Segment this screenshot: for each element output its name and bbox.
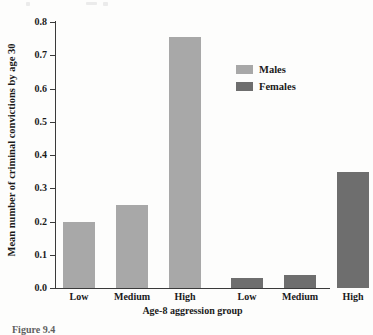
legend-label: Males <box>259 64 286 75</box>
bar-females-high <box>337 172 369 288</box>
y-tick-label: 0.4 <box>21 150 47 160</box>
y-tick-mark <box>50 222 55 223</box>
y-tick-mark <box>50 155 55 156</box>
chart-legend: MalesFemales <box>236 62 336 96</box>
scan-artifact <box>103 2 108 6</box>
bar-males-high <box>169 37 201 288</box>
y-tick-label: 0.3 <box>21 183 47 193</box>
x-axis-title: Age-8 aggression group <box>55 305 330 317</box>
x-axis-line <box>55 288 330 289</box>
y-tick-mark <box>50 288 55 289</box>
y-tick-mark <box>50 188 55 189</box>
bar-females-low <box>231 278 263 288</box>
y-tick-mark <box>50 122 55 123</box>
bar-males-medium <box>116 205 148 288</box>
x-tick-label: Low <box>217 291 277 303</box>
figure-caption: Figure 9.4 <box>12 324 55 335</box>
legend-swatch-males <box>236 65 253 74</box>
y-tick-mark <box>50 22 55 23</box>
legend-item-females: Females <box>236 79 336 94</box>
y-tick-mark <box>50 55 55 56</box>
scan-artifact <box>86 2 97 5</box>
y-tick-label: 0.7 <box>21 50 47 60</box>
legend-label: Females <box>259 81 296 92</box>
y-tick-label: 0.6 <box>21 84 47 94</box>
bar-males-low <box>63 222 95 289</box>
x-tick-label: High <box>323 291 373 303</box>
y-tick-label: 0.5 <box>21 117 47 127</box>
legend-swatch-females <box>236 82 253 91</box>
x-tick-label: Medium <box>102 291 162 303</box>
y-tick-label: 0.0 <box>21 283 47 293</box>
x-tick-label: Medium <box>270 291 330 303</box>
scan-artifact <box>26 2 30 6</box>
y-tick-mark <box>50 255 55 256</box>
y-tick-label: 0.1 <box>21 250 47 260</box>
legend-item-males: Males <box>236 62 336 77</box>
y-tick-label: 0.8 <box>21 17 47 27</box>
x-tick-label: High <box>155 291 215 303</box>
y-axis-title-text: Mean number of criminal convictions by a… <box>4 17 20 283</box>
x-tick-label: Low <box>49 291 109 303</box>
y-tick-label: 0.2 <box>21 217 47 227</box>
bar-females-medium <box>284 275 316 288</box>
y-tick-mark <box>50 89 55 90</box>
